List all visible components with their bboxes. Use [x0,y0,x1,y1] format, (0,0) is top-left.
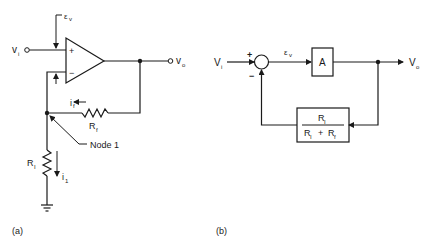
minus-sign: − [69,68,74,78]
if-label: i [70,98,72,108]
vo-subscript: o [182,62,186,68]
panel-a-circuit: v i + − ε v v o [12,12,186,236]
b-ev-label: ε [284,48,288,57]
i1-subscript: 1 [65,178,69,184]
node-1-callout: Node 1 [50,116,119,150]
node-1-leader-arrow-icon [50,116,79,144]
panel-b-caption: (b) [216,226,227,236]
b-minus-sign: − [249,71,254,81]
vo-label: v [176,55,181,66]
ground-icon [41,205,53,211]
rf-resistor-icon [82,109,108,117]
b-vi-label: V [214,57,221,68]
vi-label: v [12,44,17,55]
fb-numerator-subscript: I [324,119,326,125]
if-subscript: f [73,103,75,109]
vo-terminal: v o [104,55,186,68]
b-feedback-return-arrow-icon [262,70,298,125]
b-feedback-arrow-in-icon [349,62,378,125]
i1-label: i [62,172,64,182]
rf-label: R [89,121,96,131]
summing-junction-icon [255,55,269,69]
fb-den-a-subscript: I [310,134,312,140]
ev-subscript: v [69,16,72,22]
r1-label: R [27,158,34,168]
plus-sign: + [69,46,74,56]
gain-label: A [319,57,326,68]
ev-label: ε [64,12,68,21]
b-vo-subscript: o [416,64,420,70]
b-vo-label: V [409,57,416,68]
vi-terminal: v i [12,44,66,57]
rf-subscript: f [96,127,98,133]
vi-subscript: i [18,51,19,57]
fb-den-b-subscript: f [334,134,336,140]
b-ev-subscript: v [289,52,292,58]
node-1-label: Node 1 [90,140,119,150]
r1-subscript: I [34,164,36,170]
vi-open-terminal-icon [25,48,30,53]
r1-resistor-icon [43,150,51,176]
ev-arrow-top-icon [56,15,62,48]
fb-den-plus: + [318,128,323,138]
input-resistor-r1: R I i 1 [27,113,69,205]
b-vi-subscript: i [221,64,222,70]
panel-b-block-diagram: V i + − ε v A V o R I R I + R f (b) [214,48,420,236]
b-plus-sign: + [247,50,252,60]
figure-canvas: v i + − ε v v o [0,0,433,249]
feedback-wire-right [108,61,140,113]
op-amp: + − [66,38,104,83]
panel-a-caption: (a) [12,226,23,236]
vo-open-terminal-icon [168,59,173,64]
